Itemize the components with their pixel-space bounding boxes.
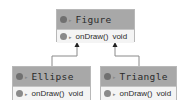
method-return-type: void <box>112 32 127 41</box>
visibility-icon: ▸ <box>69 34 72 40</box>
class-name: Figure <box>76 14 112 25</box>
ellipse-to-figure-line <box>52 46 77 66</box>
method-name: onDraw() <box>32 89 65 98</box>
class-header: ▸ Figure <box>57 10 134 30</box>
method-return-type: void <box>68 89 83 98</box>
class-icon <box>16 73 23 80</box>
class-box-ellipse[interactable]: ▸ Ellipse ▸ onDraw() void <box>12 66 91 100</box>
class-box-triangle[interactable]: ▸ Triangle ▸ onDraw() void <box>100 66 177 100</box>
triangle-to-figure-line <box>115 46 139 66</box>
method-row[interactable]: ▸ onDraw() void <box>57 30 134 43</box>
visibility-icon: ▸ <box>69 17 72 23</box>
visibility-icon: ▸ <box>25 74 28 80</box>
class-name: Triangle <box>120 71 168 82</box>
visibility-icon: ▸ <box>25 91 28 97</box>
method-name: onDraw() <box>120 89 153 98</box>
class-icon <box>60 16 67 23</box>
method-name: onDraw() <box>76 32 109 41</box>
class-header: ▸ Triangle <box>101 67 176 87</box>
method-icon <box>16 90 23 97</box>
class-header: ▸ Ellipse <box>13 67 90 87</box>
method-icon <box>104 90 111 97</box>
visibility-icon: ▸ <box>113 74 116 80</box>
method-row[interactable]: ▸ onDraw() void <box>13 87 90 100</box>
method-return-type: void <box>156 89 171 98</box>
class-name: Ellipse <box>32 71 74 82</box>
class-icon <box>104 73 111 80</box>
method-row[interactable]: ▸ onDraw() void <box>101 87 176 100</box>
method-icon <box>60 33 67 40</box>
visibility-icon: ▸ <box>113 91 116 97</box>
class-box-figure[interactable]: ▸ Figure ▸ onDraw() void <box>56 9 135 42</box>
